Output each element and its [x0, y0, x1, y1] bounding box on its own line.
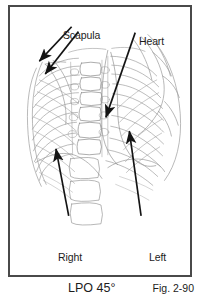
- annotation-label-heart: Heart: [122, 24, 164, 59]
- annotation-label-scapula: Scapula: [46, 18, 100, 53]
- right-lung-text-line1: Right: [58, 252, 82, 264]
- scapula-text: Scapula: [63, 29, 100, 41]
- anterior-ribs-left: [118, 80, 162, 173]
- annotation-label-right-lung: Right Lung: [58, 229, 82, 277]
- left-lung-arrow: [129, 131, 141, 216]
- figure-page: Scapula Heart Right Lung Left Lung LPO 4…: [0, 0, 200, 304]
- caption-view-position: LPO 45°: [68, 281, 115, 295]
- caption-figure-number: Fig. 2-90: [153, 282, 194, 294]
- annotation-label-left-lung: Left Lung: [146, 229, 169, 277]
- illustration-plate: Scapula Heart Right Lung Left Lung: [8, 5, 192, 277]
- thoracic-spine: [77, 62, 102, 155]
- lumbar-spine: [69, 157, 102, 225]
- figure-caption: LPO 45° Fig. 2-90: [0, 281, 200, 301]
- heart-text: Heart: [139, 35, 164, 47]
- anatomy-linework: [27, 35, 180, 225]
- body-contour: [27, 44, 180, 186]
- left-lung-text-line1: Left: [146, 252, 169, 264]
